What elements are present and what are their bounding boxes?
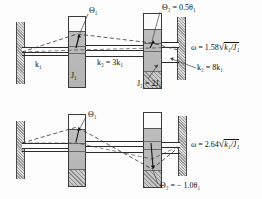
omega-radical-mode-1: √k₁/J₁ [219, 42, 239, 52]
mode-2-panel: Θ₁ Θ₂ = − 1.0θ₁ ω = 2.64√k₁/J₁ [0, 99, 262, 198]
omega-den-mode-2: J₁ [233, 140, 239, 149]
omega-prefix-mode-1: ω = 1.58 [191, 43, 219, 52]
label-j1-mode-1: J₁ [71, 72, 77, 80]
label-k2-mode-1: k₂ = 8k₁ [197, 64, 223, 72]
omega-prefix-mode-2: ω = 2.64 [191, 140, 219, 149]
label-omega-mode-2: ω = 2.64√k₁/J₁ [191, 139, 239, 149]
label-theta2-mode-1: Θ₂ = 0.5θ₁ [162, 4, 196, 12]
figure-torsional-mode-shapes: Θ₁ Θ₂ = 0.5θ₁ k₁ k₃ = 3k₁ k₂ = 8k₁ J₁ J₂… [0, 0, 262, 199]
label-omega-mode-1: ω = 1.58√k₁/J₁ [191, 42, 239, 52]
mode-1-panel: Θ₁ Θ₂ = 0.5θ₁ k₁ k₃ = 3k₁ k₂ = 8k₁ J₁ J₂… [0, 0, 262, 99]
omega-radical-mode-2: √k₁/J₁ [219, 139, 239, 149]
label-j2-mode-1: J₂ = 2J₁ [137, 80, 161, 88]
label-theta1-mode-2: Θ₁ [88, 111, 97, 119]
omega-num-mode-2: k₁ [224, 140, 230, 149]
label-k1-mode-1: k₁ [35, 61, 42, 69]
label-k3-mode-1: k₃ = 3k₁ [97, 59, 123, 67]
omega-den-mode-1: J₁ [233, 43, 239, 52]
label-theta2-mode-2: Θ₂ = − 1.0θ₁ [160, 182, 200, 190]
omega-num-mode-1: k₁ [224, 43, 230, 52]
label-theta1-mode-1: Θ₁ [89, 7, 98, 15]
